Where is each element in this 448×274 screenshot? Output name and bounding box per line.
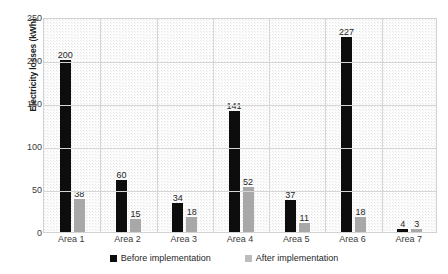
bar-value-label: 227 (332, 27, 362, 37)
gridline-horizontal (44, 105, 436, 106)
y-axis-tick-label: 150 (18, 99, 42, 109)
x-axis-tick-label: Area 1 (43, 234, 99, 244)
legend-item-before[interactable]: Before implementation (110, 253, 211, 263)
bar-chart: Electricity losses (kWh) 050100150200250… (0, 0, 448, 274)
gridline-vertical (269, 19, 270, 232)
gridline-vertical (213, 19, 214, 232)
legend-item-label: Before implementation (121, 253, 211, 263)
bar-after[interactable] (299, 223, 310, 232)
bar-before[interactable] (341, 37, 352, 232)
gridline-vertical (100, 19, 101, 232)
x-axis-tick-label: Area 4 (212, 234, 268, 244)
bar-value-label: 11 (289, 213, 319, 223)
gray-square-icon (245, 255, 252, 262)
bar-after[interactable] (74, 199, 85, 232)
y-axis-tick-label: 0 (18, 228, 42, 238)
bars-layer: 20038601534181415237112271843 (44, 19, 436, 232)
y-axis-tick-label: 100 (18, 142, 42, 152)
bar-value-label: 15 (120, 209, 150, 219)
y-axis-tick-labels: 050100150200250 (18, 18, 42, 233)
bar-value-label: 18 (177, 207, 207, 217)
bar-before[interactable] (229, 111, 240, 232)
x-axis-tick-label: Area 2 (99, 234, 155, 244)
bar-after[interactable] (411, 229, 422, 232)
y-axis-tick-label: 50 (18, 185, 42, 195)
bar-value-label: 52 (233, 177, 263, 187)
gridline-vertical (382, 19, 383, 232)
x-axis-tick-label: Area 6 (325, 234, 381, 244)
x-axis-tick-label: Area 5 (268, 234, 324, 244)
x-axis-tick-label: Area 3 (156, 234, 212, 244)
legend-item-after[interactable]: After implementation (245, 253, 339, 263)
bar-value-label: 34 (163, 193, 193, 203)
gridline-horizontal (44, 191, 436, 192)
bar-value-label: 200 (50, 50, 80, 60)
bar-before[interactable] (116, 180, 127, 232)
plot-area: 20038601534181415237112271843 (43, 18, 437, 233)
bar-value-label: 60 (106, 170, 136, 180)
chart-legend: Before implementation After implementati… (0, 253, 448, 263)
black-square-icon (110, 255, 117, 262)
gridline-horizontal (44, 148, 436, 149)
bar-value-label: 3 (402, 219, 432, 229)
x-axis-tick-labels: Area 1Area 2Area 3Area 4Area 5Area 6Area… (43, 234, 437, 250)
bar-after[interactable] (186, 217, 197, 232)
legend-item-label: After implementation (256, 253, 339, 263)
gridline-horizontal (44, 62, 436, 63)
bar-after[interactable] (355, 217, 366, 232)
y-axis-tick-label: 250 (18, 13, 42, 23)
gridline-vertical (157, 19, 158, 232)
bar-value-label: 18 (346, 207, 376, 217)
x-axis-tick-label: Area 7 (381, 234, 437, 244)
bar-before[interactable] (60, 60, 71, 232)
y-axis-tick-label: 200 (18, 56, 42, 66)
gridline-vertical (325, 19, 326, 232)
bar-after[interactable] (130, 219, 141, 232)
bar-after[interactable] (243, 187, 254, 232)
